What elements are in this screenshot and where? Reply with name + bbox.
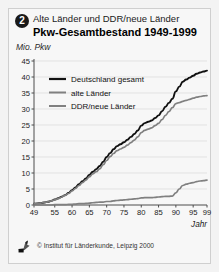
y-tick-label: 5 — [26, 185, 30, 194]
series-line-3 — [34, 180, 207, 205]
y-tick-label: 30 — [22, 105, 30, 114]
x-tick-label: 80 — [137, 208, 145, 217]
chart-subtitle: Alte Länder und DDR/neue Länder — [33, 13, 179, 24]
y-tick-label: 45 — [22, 57, 30, 66]
x-tick-label: 70 — [102, 208, 110, 217]
x-tick-label: 75 — [120, 208, 128, 217]
y-tick-label: 15 — [22, 153, 30, 162]
x-tick-label: 65 — [85, 208, 93, 217]
x-tick-label: 55 — [51, 208, 59, 217]
figure-root: 2 Alte Länder und DDR/neue Länder Pkw-Ge… — [0, 0, 219, 272]
chart-footer: © Institut für Länderkunde, Leipzig 2000 — [9, 237, 212, 259]
x-tick-label: 60 — [68, 208, 76, 217]
credit-text: © Institut für Länderkunde, Leipzig 2000 — [37, 242, 154, 249]
plot-area: 0510152025303540454955606570758085909599… — [9, 53, 212, 238]
y-tick-label: 40 — [22, 73, 30, 82]
y-tick-label: 25 — [22, 121, 30, 130]
y-axis-unit-label: Mio. Pkw — [16, 42, 50, 52]
line-chart-svg: 0510152025303540454955606570758085909599… — [9, 53, 212, 238]
x-axis-label: Jahr — [190, 220, 207, 229]
x-tick-label: 49 — [30, 208, 38, 217]
chart-title: Pkw-Gesamtbestand 1949-1999 — [33, 26, 197, 38]
x-tick-label: 85 — [154, 208, 162, 217]
y-tick-label: 20 — [22, 137, 30, 146]
chart-card: 2 Alte Länder und DDR/neue Länder Pkw-Ge… — [8, 8, 211, 264]
legend-label-2: alte Länder — [71, 89, 111, 98]
y-tick-label: 10 — [22, 169, 30, 178]
legend-label-3: DDR/neue Länder — [71, 102, 136, 111]
legend-label-1: Deutschland gesamt — [71, 75, 145, 84]
y-tick-label: 35 — [22, 89, 30, 98]
figure-number-badge: 2 — [15, 14, 29, 28]
series-line-1 — [34, 71, 207, 204]
x-tick-label: 95 — [189, 208, 197, 217]
x-tick-label: 99 — [203, 208, 211, 217]
x-tick-label: 90 — [172, 208, 180, 217]
institut-fuer-laenderkunde-logo — [16, 238, 33, 255]
